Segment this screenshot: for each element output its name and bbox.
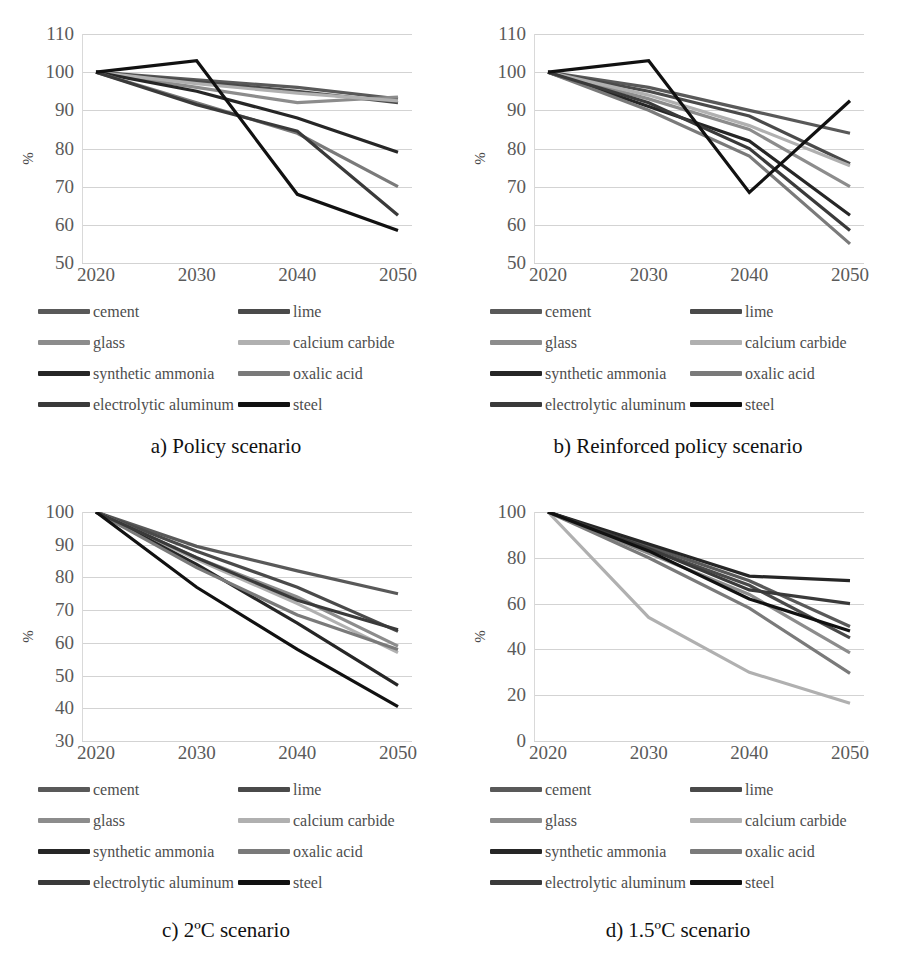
legend-swatch-icon (238, 402, 290, 407)
legend-item[interactable]: glass (38, 327, 125, 358)
series-line (548, 512, 850, 673)
legend-item[interactable]: synthetic ammonia (490, 358, 666, 389)
legend-swatch-icon (490, 787, 542, 792)
legend-row: synthetic ammoniaoxalic acid (38, 836, 438, 867)
legend-swatch-icon (238, 340, 290, 345)
y-axis-ticks-a: 5060708090100110 (36, 34, 80, 262)
legend-label: oxalic acid (745, 844, 815, 860)
y-tick-label: 100 (46, 501, 75, 523)
series-line (96, 512, 398, 631)
legend-item[interactable]: cement (490, 774, 591, 805)
legend-item[interactable]: steel (690, 389, 774, 420)
legend-item[interactable]: lime (238, 774, 321, 805)
panel-caption-a: a) Policy scenario (0, 434, 452, 459)
legend-swatch-icon (38, 402, 90, 407)
legend-label: cement (545, 782, 591, 798)
x-tick-label: 2030 (178, 264, 216, 286)
legend-item[interactable]: electrolytic aluminum (38, 867, 234, 898)
legend-label: lime (293, 782, 321, 798)
legend-d: cementlimeglasscalcium carbidesynthetic … (490, 774, 890, 904)
x-tick-label: 2050 (379, 264, 417, 286)
series-lines-d (534, 512, 864, 741)
legend-item[interactable]: lime (238, 296, 321, 327)
y-tick-label: 110 (498, 23, 526, 45)
legend-item[interactable]: oxalic acid (238, 836, 363, 867)
legend-swatch-icon (38, 818, 90, 823)
legend-label: synthetic ammonia (93, 844, 214, 860)
x-axis-ticks-a: 2020203020402050 (82, 264, 412, 294)
legend-item[interactable]: oxalic acid (690, 836, 815, 867)
legend-item[interactable]: glass (38, 805, 125, 836)
y-tick-label: 90 (55, 99, 74, 121)
legend-item[interactable]: calcium carbide (690, 805, 847, 836)
legend-label: steel (745, 875, 774, 891)
legend-swatch-icon (690, 849, 742, 854)
y-axis-ticks-b: 5060708090100110 (488, 34, 532, 262)
series-lines-a (82, 34, 412, 263)
x-tick-label: 2030 (178, 742, 216, 764)
legend-item[interactable]: lime (690, 296, 773, 327)
legend-row: electrolytic aluminumsteel (490, 389, 890, 420)
legend-item[interactable]: glass (490, 805, 577, 836)
y-axis-label-c: % (20, 630, 37, 643)
legend-label: calcium carbide (293, 335, 395, 351)
legend-label: electrolytic aluminum (545, 397, 686, 413)
y-tick-label: 0 (517, 730, 527, 752)
legend-row: synthetic ammoniaoxalic acid (490, 358, 890, 389)
legend-item[interactable]: lime (690, 774, 773, 805)
legend-item[interactable]: oxalic acid (238, 358, 363, 389)
legend-item[interactable]: calcium carbide (238, 805, 395, 836)
legend-item[interactable]: steel (238, 867, 322, 898)
x-tick-label: 2020 (529, 742, 567, 764)
y-axis-label-a: % (20, 152, 37, 165)
legend-item[interactable]: electrolytic aluminum (490, 867, 686, 898)
y-axis-label-b: % (472, 152, 489, 165)
legend-item[interactable]: cement (490, 296, 591, 327)
legend-item[interactable]: synthetic ammonia (38, 358, 214, 389)
legend-item[interactable]: cement (38, 774, 139, 805)
panel-caption-d: d) 1.5ºC scenario (452, 918, 904, 943)
x-tick-label: 2040 (730, 264, 768, 286)
legend-item[interactable]: oxalic acid (690, 358, 815, 389)
legend-swatch-icon (238, 818, 290, 823)
legend-label: oxalic acid (293, 844, 363, 860)
legend-label: cement (93, 782, 139, 798)
legend-item[interactable]: calcium carbide (238, 327, 395, 358)
x-tick-label: 2040 (730, 742, 768, 764)
legend-swatch-icon (238, 309, 290, 314)
x-tick-label: 2020 (77, 264, 115, 286)
legend-label: steel (293, 875, 322, 891)
legend-item[interactable]: steel (690, 867, 774, 898)
y-tick-label: 50 (55, 665, 74, 687)
chart-panel-a: % 5060708090100110 2020203020402050 ceme… (0, 0, 452, 478)
legend-swatch-icon (690, 787, 742, 792)
legend-swatch-icon (690, 402, 742, 407)
legend-label: calcium carbide (745, 813, 847, 829)
legend-item[interactable]: electrolytic aluminum (490, 389, 686, 420)
legend-row: electrolytic aluminumsteel (38, 867, 438, 898)
legend-label: oxalic acid (745, 366, 815, 382)
legend-row: glasscalcium carbide (38, 805, 438, 836)
y-axis-ticks-d: 020406080100 (488, 512, 532, 740)
legend-swatch-icon (490, 818, 542, 823)
legend-item[interactable]: synthetic ammonia (38, 836, 214, 867)
legend-label: glass (93, 813, 125, 829)
x-tick-label: 2050 (831, 742, 869, 764)
legend-item[interactable]: calcium carbide (690, 327, 847, 358)
legend-item[interactable]: synthetic ammonia (490, 836, 666, 867)
plot-area-c: % 30405060708090100 2020203020402050 (0, 478, 452, 770)
legend-item[interactable]: steel (238, 389, 322, 420)
legend-label: electrolytic aluminum (93, 875, 234, 891)
y-tick-label: 80 (507, 138, 526, 160)
panel-caption-c: c) 2ºC scenario (0, 918, 452, 943)
legend-item[interactable]: glass (490, 327, 577, 358)
legend-label: cement (545, 304, 591, 320)
x-tick-label: 2020 (77, 742, 115, 764)
legend-row: cementlime (38, 774, 438, 805)
legend-label: calcium carbide (745, 335, 847, 351)
legend-item[interactable]: cement (38, 296, 139, 327)
legend-item[interactable]: electrolytic aluminum (38, 389, 234, 420)
chart-panel-c: % 30405060708090100 2020203020402050 cem… (0, 478, 452, 956)
y-tick-label: 100 (498, 501, 527, 523)
legend-label: electrolytic aluminum (545, 875, 686, 891)
